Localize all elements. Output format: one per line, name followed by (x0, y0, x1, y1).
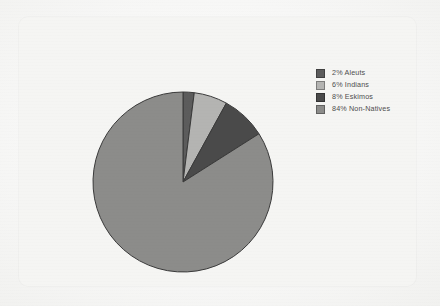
legend-swatch-eskimos (316, 93, 325, 102)
chart-legend: 2% Aleuts 6% Indians 8% Eskimos 84% Non-… (316, 67, 416, 115)
legend-item-eskimos[interactable]: 8% Eskimos (316, 91, 416, 103)
pie-chart-plot-area: 2% Aleuts 6% Indians 8% Eskimos 84% Non-… (19, 17, 416, 286)
chart-panel: 2% Aleuts 6% Indians 8% Eskimos 84% Non-… (19, 17, 416, 286)
pie-slice-group (93, 92, 273, 272)
legend-swatch-aleuts (316, 69, 325, 78)
pie-chart-svg (91, 90, 275, 274)
legend-swatch-indians (316, 81, 325, 90)
legend-label-indians: 6% Indians (332, 79, 369, 91)
legend-item-non-natives[interactable]: 84% Non-Natives (316, 103, 416, 115)
legend-label-aleuts: 2% Aleuts (332, 67, 365, 79)
legend-swatch-non-natives (316, 105, 325, 114)
page-background: 2% Aleuts 6% Indians 8% Eskimos 84% Non-… (0, 0, 440, 306)
legend-item-indians[interactable]: 6% Indians (316, 79, 416, 91)
legend-item-aleuts[interactable]: 2% Aleuts (316, 67, 416, 79)
pie-chart (91, 90, 275, 274)
legend-label-eskimos: 8% Eskimos (332, 91, 373, 103)
legend-label-non-natives: 84% Non-Natives (332, 103, 390, 115)
